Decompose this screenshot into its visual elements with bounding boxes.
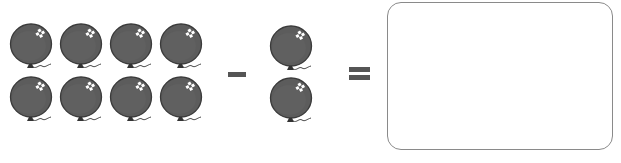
balloon-icon (159, 23, 207, 73)
balloon-icon (109, 23, 157, 73)
balloon-icon (269, 25, 317, 75)
minus-sign (228, 72, 246, 77)
balloon-icon (269, 77, 317, 127)
balloon-icon (9, 76, 57, 126)
answer-box[interactable] (387, 2, 613, 150)
equals-bar-bottom (349, 75, 370, 80)
balloon-icon (109, 76, 157, 126)
balloon-icon (59, 23, 107, 73)
equals-bar-top (349, 67, 370, 72)
balloon-icon (9, 23, 57, 73)
balloon-icon (59, 76, 107, 126)
balloon-icon (159, 76, 207, 126)
